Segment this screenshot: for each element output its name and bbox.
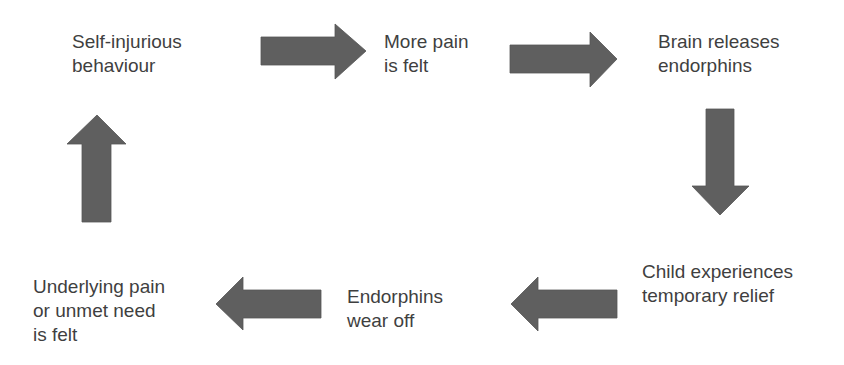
arrow-left-1 bbox=[511, 277, 617, 331]
arrow-right-1 bbox=[261, 24, 366, 79]
node-child-experiences-relief: Child experiences temporary relief bbox=[642, 260, 793, 308]
node-self-injurious-behaviour: Self-injurious behaviour bbox=[72, 30, 182, 78]
node-more-pain-felt: More pain is felt bbox=[384, 30, 469, 78]
arrow-right-2 bbox=[510, 32, 617, 87]
node-endorphins-wear-off: Endorphins wear off bbox=[347, 285, 443, 333]
node-underlying-pain-felt: Underlying pain or unmet need is felt bbox=[33, 275, 165, 347]
arrow-down bbox=[692, 109, 749, 215]
arrow-left-2 bbox=[216, 277, 321, 330]
node-brain-releases-endorphins: Brain releases endorphins bbox=[658, 30, 779, 78]
arrow-up bbox=[67, 115, 126, 222]
